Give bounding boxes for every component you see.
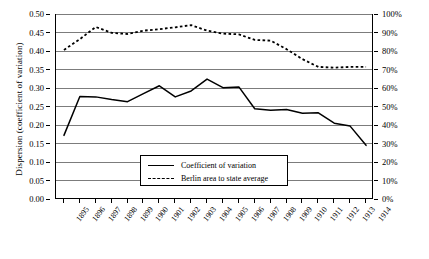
axis-tick-mark: [374, 32, 378, 33]
axis-tick-mark: [46, 51, 50, 52]
x-axis-tick-label: 1902: [185, 205, 202, 223]
x-axis-tick-label: 1909: [297, 205, 314, 223]
legend-item-berlin-area-to-state-average: Berlin area to state average: [141, 172, 287, 185]
y-axis-right-tick-label: 50%: [382, 103, 398, 112]
axis-tick-mark: [46, 14, 50, 15]
y-axis-left-tick-label: 0.15: [29, 140, 44, 149]
y-axis-right-tick-label: 30%: [382, 140, 398, 149]
legend-item-coefficient-of-variation: Coefficient of variation: [141, 159, 287, 172]
x-axis-tick-label: 1900: [154, 205, 171, 223]
chart-container: Dispersion (coefficient of variation) Ra…: [0, 0, 429, 259]
y-axis-right-tick-label: 10%: [382, 177, 398, 186]
x-axis-tick-label: 1897: [106, 205, 123, 223]
axis-tick-mark: [374, 69, 378, 70]
x-axis-tick-label: 1908: [281, 205, 298, 223]
y-axis-right-tick-label: 100%: [382, 10, 402, 19]
x-axis-labels: 1895189618971898189919001901190219031904…: [0, 199, 429, 259]
x-axis-tick-label: 1901: [169, 205, 186, 223]
axis-tick-mark: [46, 143, 50, 144]
x-axis-tick-label: 1905: [233, 205, 250, 223]
dashed-line-icon: [141, 178, 181, 179]
x-axis-tick-label: 1911: [328, 205, 345, 223]
axis-tick-mark: [374, 88, 378, 89]
y-axis-left-tick-label: 0.30: [29, 84, 44, 93]
y-axis-right-tick-label: 20%: [382, 158, 398, 167]
x-axis-tick-label: 1899: [138, 205, 155, 223]
y-axis-left-tick-label: 0.50: [29, 10, 44, 19]
axis-tick-mark: [374, 143, 378, 144]
y-axis-left-tick-label: 0.05: [29, 177, 44, 186]
axis-tick-mark: [46, 125, 50, 126]
axis-tick-mark: [46, 162, 50, 163]
axis-tick-mark: [46, 106, 50, 107]
x-axis-tick-label: 1907: [265, 205, 282, 223]
y-axis-left-tick-label: 0.25: [29, 103, 44, 112]
axis-tick-mark: [46, 69, 50, 70]
y-axis-right-tick-label: 80%: [382, 47, 398, 56]
legend-label: Berlin area to state average: [181, 174, 268, 183]
x-axis-tick-label: 1913: [360, 205, 377, 223]
y-axis-left-tick-label: 0.10: [29, 158, 44, 167]
axis-tick-mark: [46, 32, 50, 33]
y-axis-right-tick-label: 60%: [382, 84, 398, 93]
x-axis-tick-label: 1906: [249, 205, 266, 223]
y-axis-right-tick-label: 70%: [382, 66, 398, 75]
y-axis-left-tick-label: 0.35: [29, 66, 44, 75]
axis-tick-mark: [374, 162, 378, 163]
x-axis-tick-label: 1910: [313, 205, 330, 223]
y-axis-left-tick-label: 0.20: [29, 121, 44, 130]
axis-tick-mark: [374, 106, 378, 107]
series-berlin-area-to-state-average: [64, 25, 366, 68]
legend-label: Coefficient of variation: [181, 161, 256, 170]
axis-tick-mark: [374, 125, 378, 126]
axis-tick-mark: [374, 51, 378, 52]
x-axis-tick-label: 1898: [122, 205, 139, 223]
x-axis-tick-label: 1904: [217, 205, 234, 223]
y-axis-right-tick-label: 90%: [382, 29, 398, 38]
solid-line-icon: [141, 165, 181, 166]
y-axis-left-tick-label: 0.45: [29, 29, 44, 38]
x-axis-tick-label: 1914: [376, 205, 393, 223]
axis-tick-mark: [46, 180, 50, 181]
x-axis-tick-label: 1896: [90, 205, 107, 223]
series-coefficient-of-variation: [64, 79, 366, 145]
y-axis-left-tick-label: 0.40: [29, 47, 44, 56]
x-axis-tick-label: 1912: [344, 205, 361, 223]
axis-tick-mark: [374, 14, 378, 15]
x-axis-tick-label: 1895: [74, 205, 91, 223]
axis-tick-mark: [374, 180, 378, 181]
y-axis-right-tick-label: 40%: [382, 121, 398, 130]
legend: Coefficient of variation Berlin area to …: [140, 155, 288, 186]
x-axis-tick-label: 1903: [201, 205, 218, 223]
axis-tick-mark: [46, 88, 50, 89]
